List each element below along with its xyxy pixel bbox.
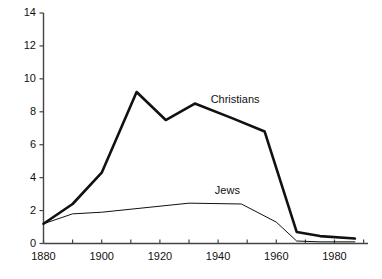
y-tick-label: 0 <box>6 238 36 249</box>
y-tick-label: 4 <box>6 172 36 183</box>
chart-plot-area <box>0 0 382 279</box>
series-line-jews <box>44 203 355 242</box>
y-tick-label: 14 <box>6 7 36 18</box>
x-tick-label: 1900 <box>77 251 127 262</box>
series-annotation-christians: Christians <box>211 94 260 105</box>
y-tick-label: 2 <box>6 205 36 216</box>
x-tick-label: 1920 <box>135 251 185 262</box>
y-tick-label: 10 <box>6 73 36 84</box>
x-tick-label: 1960 <box>251 251 301 262</box>
y-tick-label: 6 <box>6 139 36 150</box>
series-annotation-jews: Jews <box>215 185 240 196</box>
x-tick-label: 1940 <box>193 251 243 262</box>
y-tick-label: 8 <box>6 106 36 117</box>
y-tick-label: 12 <box>6 40 36 51</box>
chart-container: 02468101214 188019001920194019601980 Chr… <box>0 0 382 279</box>
series-line-christians <box>44 92 355 239</box>
x-tick-label: 1980 <box>310 251 360 262</box>
x-tick-label: 1880 <box>19 251 69 262</box>
